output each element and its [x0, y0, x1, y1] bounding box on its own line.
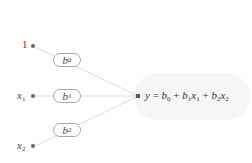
eq-equals: = [150, 89, 162, 101]
input-node-x1 [31, 94, 35, 98]
output-node [136, 94, 140, 98]
weight-b0-subscript: 0 [68, 56, 72, 64]
weight-b2-subscript: 2 [68, 126, 72, 134]
weight-b1-subscript: 1 [68, 92, 72, 100]
eq-x2-sub: 2 [225, 95, 229, 103]
eq-plus-2: + [200, 89, 212, 101]
input-x2-subscript: 2 [22, 145, 26, 153]
eq-plus-1: + [171, 89, 183, 101]
weight-b1: b1 [53, 89, 81, 103]
input-x1-subscript: 1 [22, 95, 26, 103]
input-bias-text: 1 [22, 38, 28, 50]
input-label-bias: 1 [22, 39, 28, 50]
input-node-x2 [31, 144, 35, 148]
edge-bias-to-output [35, 47, 138, 96]
weight-b2: b2 [53, 123, 81, 137]
input-label-x1: x1 [17, 90, 25, 105]
weight-b0: b0 [53, 53, 81, 67]
output-equation: y = b0 + b1x1 + b2x2 [145, 89, 229, 103]
edge-x2-to-output [35, 96, 138, 146]
input-node-bias [31, 44, 35, 48]
input-label-x2: x2 [17, 140, 25, 155]
connection-edges [0, 0, 252, 163]
